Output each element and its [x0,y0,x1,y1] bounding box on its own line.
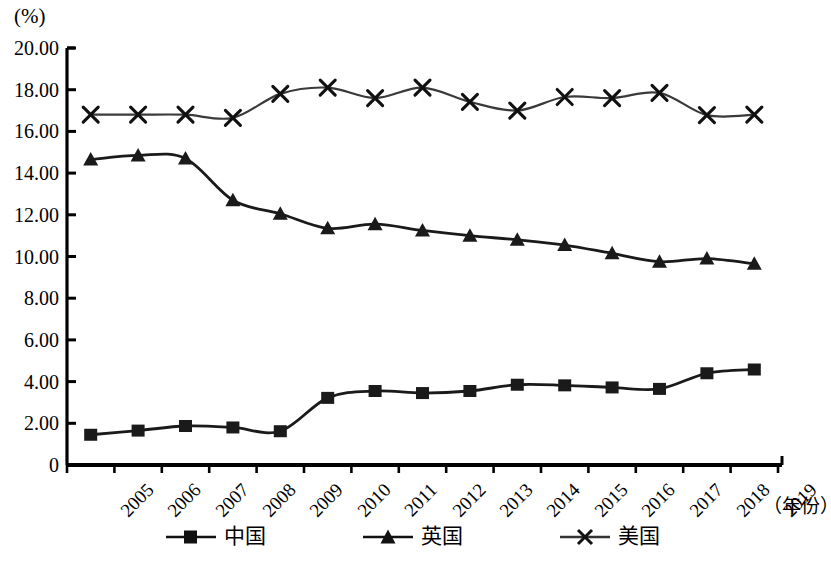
data-point-square-marker [606,381,619,393]
series-usa [83,80,762,125]
data-point-square-marker [369,385,382,397]
data-point-square-marker [748,364,761,376]
series-line-uk [91,154,755,264]
data-point-square-marker [179,420,192,432]
legend-marker-triangle-icon [362,528,414,546]
legend-item-usa[interactable]: 美国 [559,526,660,547]
data-point-square-marker [511,379,524,391]
data-series-layer [83,80,762,441]
legend-item-china[interactable]: 中国 [165,526,266,547]
legend-marker-square-icon [165,528,217,546]
data-point-square-marker [226,421,239,433]
series-uk [83,148,762,270]
data-point-square-marker [274,425,287,437]
data-point-square-marker [653,383,666,395]
series-china [84,364,761,441]
legend-marker-cross-icon [559,528,611,546]
data-point-square-marker [463,385,476,397]
legend-label-uk: 英国 [421,526,463,547]
legend-label-china: 中国 [224,526,266,547]
x-axis-title: （年份） [763,491,831,518]
data-point-cross-marker [462,94,477,109]
data-point-square-marker [321,392,334,404]
data-point-square-marker [132,425,145,437]
data-point-square-marker [416,387,429,399]
series-line-usa [91,87,755,118]
chart-legend: 中国 英国 美国 [0,526,824,547]
data-point-square-marker [700,367,713,379]
legend-label-usa: 美国 [618,526,660,547]
data-point-square-marker [558,379,571,391]
legend-item-uk[interactable]: 英国 [362,526,463,547]
data-point-square-marker [84,429,97,441]
data-point-cross-marker [273,86,288,101]
